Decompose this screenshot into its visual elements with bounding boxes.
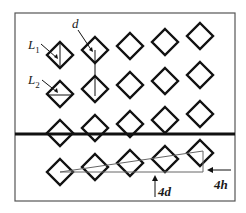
diamond-shape <box>82 115 108 141</box>
diamond-shape <box>187 101 213 127</box>
diamond-shape <box>152 68 178 94</box>
diamond-shape <box>187 62 213 88</box>
l2-arrowhead <box>54 88 58 93</box>
label-l2: L2 <box>28 73 40 90</box>
diamond-shape <box>117 33 143 59</box>
four-d-arrowhead <box>152 175 158 181</box>
label-l1: L1 <box>28 38 40 55</box>
diamond-grid <box>47 23 213 185</box>
diamond-shape <box>187 23 213 49</box>
slope-triangle <box>60 151 203 172</box>
diamond-shape <box>117 72 143 98</box>
label-4d: 4d <box>158 185 171 198</box>
diamond-shape <box>152 29 178 55</box>
diamond-shape <box>152 146 178 172</box>
four-h-arrowhead <box>207 167 213 173</box>
diagram-canvas <box>0 0 246 213</box>
label-4h: 4h <box>214 178 228 191</box>
label-l2-sub: 2 <box>35 80 40 90</box>
diamond-shape <box>47 81 73 107</box>
diamond-shape <box>152 107 178 133</box>
label-d: d <box>72 17 79 30</box>
label-l1-sub: 1 <box>35 45 40 55</box>
l1-arrowhead <box>54 54 58 59</box>
